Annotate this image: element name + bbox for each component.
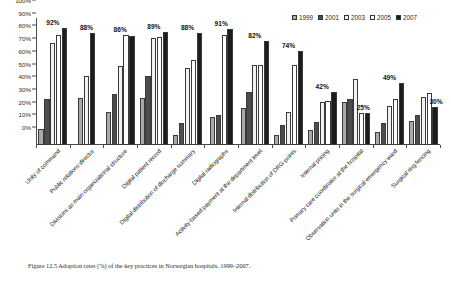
bar-group-value-label: 82% [248,32,261,39]
bar-2003 [185,68,190,145]
bar-2003 [286,112,291,145]
bar-group-value-label: 91% [215,20,228,27]
bar-2003 [353,79,358,145]
bar-group: 91% [204,18,238,145]
bar-2001 [112,94,117,145]
y-axis: 0%10%20%30%40%50%60%70%80%90%100% [0,0,36,127]
x-axis-category-label: Digital radiographs [191,148,229,186]
bar-2001 [246,92,251,145]
chart-container: 0%10%20%30%40%50%60%70%80%90%100% 92%88%… [0,0,451,286]
bar-group-value-label: 74% [282,42,295,49]
bar-2001 [145,76,150,145]
bar-2001 [314,122,319,145]
y-axis-tick-label: 20% [19,98,31,105]
legend-label: 2007 [403,14,417,21]
legend-item-2001: 2001 [318,14,339,21]
y-axis-tick-label: 10% [19,111,31,118]
bar-1999 [173,135,178,145]
bar-1999 [106,112,111,145]
bar-1999 [38,129,43,146]
bar-group: 89% [137,18,171,145]
bar-2005 [157,37,162,145]
bar-2003 [252,65,257,145]
x-axis-category-label: Internal distribution of DRG-points [231,148,297,214]
bar-2005 [123,35,128,145]
y-axis-tick-label: 60% [19,47,31,54]
bar-group-value-label: 30% [429,98,442,105]
bar-2007 [432,107,437,145]
bar-2005 [359,113,364,145]
bar-2001 [179,123,184,145]
bar-2003 [320,102,325,145]
legend-label: 2003 [351,14,365,21]
bar-group: 82% [238,18,272,145]
bar-group-value-label: 49% [383,74,396,81]
bar-1999 [210,117,215,145]
legend-swatch-icon [318,15,323,20]
bar-2005 [393,99,398,145]
x-axis-category-label: Primary care coordinator at the hospital [289,148,364,223]
x-axis-category-label: Internal pricing [299,148,330,179]
bar-group: 88% [171,18,205,145]
bar-2005 [56,35,61,145]
bar-2003 [84,76,89,145]
legend-swatch-icon [396,15,401,20]
bar-2007 [163,32,168,145]
legend-swatch-icon [344,15,349,20]
bar-group-value-label: 92% [46,19,59,26]
bar-2007 [129,36,134,145]
bar-1999 [274,135,279,145]
plot-area: 92%88%86%89%88%91%82%74%42%25%49%30% [36,18,440,145]
bar-2001 [381,123,386,145]
bar-1999 [241,108,246,145]
bar-2007 [197,33,202,145]
bar-2001 [347,99,352,145]
bar-groups: 92%88%86%89%88%91%82%74%42%25%49%30% [36,18,440,145]
legend-label: 1999 [299,14,313,21]
legend-item-2007: 2007 [396,14,417,21]
y-axis-tick-label: 80% [19,22,31,29]
y-axis-tick-label: 100% [15,0,31,4]
bar-group: 92% [36,18,70,145]
legend-item-2005: 2005 [370,14,391,21]
bar-2007 [365,113,370,145]
bar-2007 [331,92,336,145]
bar-2001 [280,125,285,145]
x-axis-category-label: Divisions as main organizational structu… [49,148,129,228]
legend-swatch-icon [370,15,375,20]
y-axis-tick-label: 30% [19,85,31,92]
bar-2007 [90,33,95,145]
bar-1999 [375,132,380,145]
bar-group-value-label: 86% [114,26,127,33]
bar-group: 25% [339,18,373,145]
bar-1999 [342,102,347,145]
bar-group-value-label: 89% [147,23,160,30]
bar-group-value-label: 88% [80,24,93,31]
bar-2007 [399,83,404,145]
figure-caption: Figure 12.5 Adoption rates (%) of the ke… [28,262,438,270]
y-axis-tick-mark [32,12,36,13]
bar-2005 [191,60,196,145]
bar-2003 [118,66,123,145]
y-axis-tick-label: 90% [19,9,31,16]
bar-group: 86% [103,18,137,145]
legend-label: 2005 [377,14,391,21]
legend-item-1999: 1999 [292,14,313,21]
bar-group: 42% [305,18,339,145]
bar-2007 [227,29,232,145]
y-axis-tick-label: 0% [22,124,31,131]
category-labels: Unity of commandPublic relations directo… [0,148,451,258]
y-axis-tick-label: 70% [19,35,31,42]
bar-group-value-label: 42% [316,83,329,90]
bar-group: 30% [406,18,440,145]
bar-2007 [298,51,303,145]
bar-2005 [292,65,297,145]
bar-2001 [216,115,221,145]
legend-swatch-icon [292,15,297,20]
legend-label: 2001 [325,14,339,21]
bar-2007 [264,41,269,145]
bar-2003 [50,43,55,145]
bar-1999 [140,98,145,145]
y-axis-tick-label: 50% [19,60,31,67]
bar-2001 [44,99,49,145]
